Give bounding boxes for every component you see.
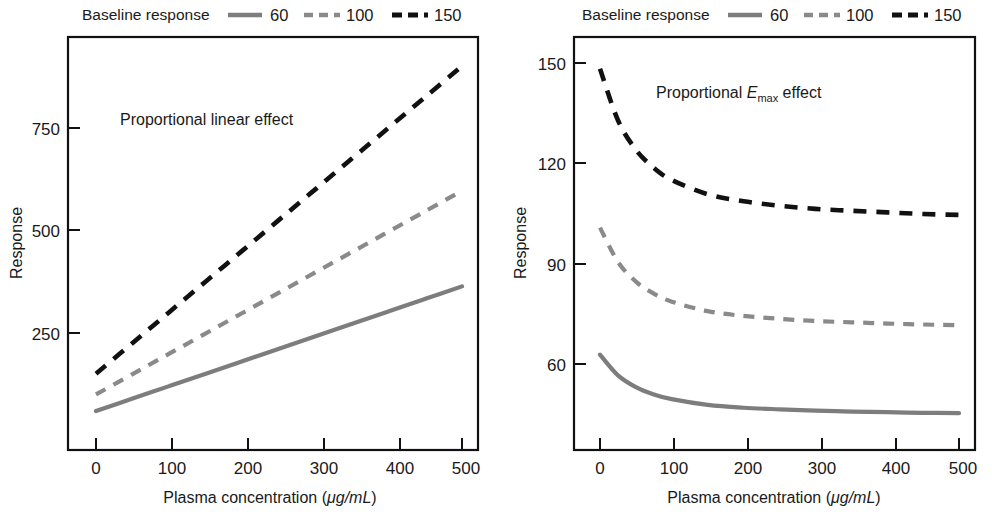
x-tick-label-100: 100 <box>158 459 186 478</box>
x-axis-title: Plasma concentration (μg/mL) <box>163 489 376 506</box>
legend-label-100: 100 <box>346 6 374 24</box>
series-group <box>600 69 959 413</box>
legend-right: Baseline response 60 100 150 <box>582 6 962 24</box>
x-tick-label-100: 100 <box>660 459 688 478</box>
panel-linear-effect: Baseline response 60 100 150 250 500 750 <box>0 0 496 517</box>
x-axis-ticks: 0 100 200 300 400 500 <box>595 438 977 478</box>
y-tick-label-90: 90 <box>547 256 566 275</box>
figure-root: Baseline response 60 100 150 250 500 750 <box>0 0 992 517</box>
right-chart-svg: Baseline response 60 100 150 60 90 120 1… <box>496 0 992 517</box>
x-tick-label-300: 300 <box>310 459 338 478</box>
x-axis-ticks: 0 100 200 300 400 500 <box>91 438 480 478</box>
x-tick-label-200: 200 <box>734 459 762 478</box>
y-tick-label-750: 750 <box>32 120 60 139</box>
plot-annotation: Proportional Emax effect <box>656 84 822 104</box>
y-tick-label-250: 250 <box>32 325 60 344</box>
series-line-60 <box>96 286 462 411</box>
legend-label-150: 150 <box>434 6 462 24</box>
legend-label-100: 100 <box>846 6 874 24</box>
y-axis-ticks: 250 500 750 <box>32 120 80 344</box>
y-tick-label-60: 60 <box>547 356 566 375</box>
x-tick-label-500: 500 <box>452 459 480 478</box>
legend-title: Baseline response <box>82 6 210 23</box>
series-line-100 <box>600 228 959 326</box>
legend-left: Baseline response 60 100 150 <box>82 6 462 24</box>
plot-frame <box>68 37 478 450</box>
x-axis-title: Plasma concentration (μg/mL) <box>667 489 880 506</box>
x-tick-label-500: 500 <box>949 459 977 478</box>
left-chart-svg: Baseline response 60 100 150 250 500 750 <box>0 0 496 517</box>
x-tick-label-400: 400 <box>386 459 414 478</box>
x-tick-label-200: 200 <box>234 459 262 478</box>
legend-title: Baseline response <box>582 6 710 23</box>
series-line-60 <box>600 355 959 413</box>
y-tick-label-500: 500 <box>32 222 60 241</box>
x-tick-label-0: 0 <box>595 459 604 478</box>
x-tick-label-0: 0 <box>91 459 100 478</box>
x-tick-label-400: 400 <box>882 459 910 478</box>
legend-label-60: 60 <box>270 6 288 24</box>
y-tick-label-150: 150 <box>538 55 566 74</box>
y-axis-ticks: 60 90 120 150 <box>538 55 586 375</box>
panel-emax-effect: Baseline response 60 100 150 60 90 120 1… <box>496 0 992 517</box>
x-tick-label-300: 300 <box>808 459 836 478</box>
y-axis-title: Response <box>8 207 25 279</box>
legend-label-150: 150 <box>934 6 962 24</box>
plot-annotation: Proportional linear effect <box>120 111 294 128</box>
legend-label-60: 60 <box>770 6 788 24</box>
y-axis-title: Response <box>512 207 529 279</box>
y-tick-label-120: 120 <box>538 155 566 174</box>
